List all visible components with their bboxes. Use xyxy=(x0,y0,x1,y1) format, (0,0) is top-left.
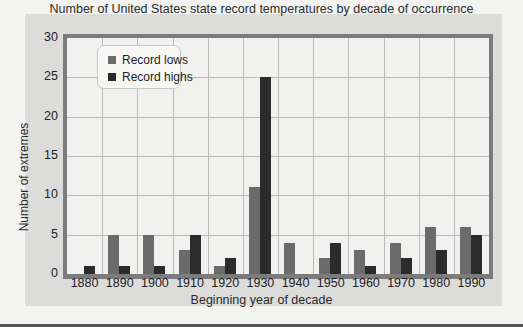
x-tick-label: 1880 xyxy=(65,276,105,290)
x-tick-label: 1890 xyxy=(100,276,140,290)
bar-record-high xyxy=(84,266,95,274)
legend-swatch-highs xyxy=(108,73,116,81)
bar-record-low xyxy=(108,235,119,274)
legend: Record lows Record highs xyxy=(97,45,181,89)
x-tick-label: 1970 xyxy=(381,276,421,290)
legend-label-highs: Record highs xyxy=(122,70,193,84)
y-axis-label: Number of extremes xyxy=(17,107,31,247)
bar-record-low xyxy=(425,227,436,274)
bar-record-high xyxy=(190,235,201,274)
gridline-vertical xyxy=(384,38,385,274)
bar-record-low xyxy=(143,235,154,274)
bar-record-low xyxy=(284,243,295,274)
bar-record-high xyxy=(401,258,412,274)
bar-record-low xyxy=(214,266,225,274)
x-tick-label: 1920 xyxy=(205,276,245,290)
gridline-vertical xyxy=(419,38,420,274)
bar-record-high xyxy=(471,235,482,274)
x-tick-label: 1950 xyxy=(311,276,351,290)
x-tick-label: 1940 xyxy=(276,276,316,290)
x-tick-label: 1900 xyxy=(135,276,175,290)
legend-item-highs: Record highs xyxy=(108,70,193,84)
bar-record-low xyxy=(179,250,190,274)
x-tick-label: 1930 xyxy=(240,276,280,290)
bar-record-high xyxy=(365,266,376,274)
y-tick-label: 20 xyxy=(28,109,58,123)
bar-record-high xyxy=(119,266,130,274)
gridline-vertical xyxy=(243,38,244,274)
bar-record-high xyxy=(225,258,236,274)
y-tick-label: 10 xyxy=(28,187,58,201)
bar-record-high xyxy=(154,266,165,274)
legend-label-lows: Record lows xyxy=(122,53,188,67)
bar-record-low xyxy=(390,243,401,274)
gridline-vertical xyxy=(313,38,314,274)
y-tick-label: 0 xyxy=(28,266,58,280)
chart-title: Number of United States state record tem… xyxy=(0,2,523,16)
bar-record-high xyxy=(436,250,447,274)
gridline-vertical xyxy=(454,38,455,274)
x-tick-label: 1910 xyxy=(170,276,210,290)
legend-item-lows: Record lows xyxy=(108,53,188,67)
bar-record-low xyxy=(354,250,365,274)
bar-record-low xyxy=(249,187,260,274)
x-axis-label: Beginning year of decade xyxy=(0,293,523,307)
gridline-vertical xyxy=(348,38,349,274)
gridline-vertical xyxy=(208,38,209,274)
x-tick-label: 1980 xyxy=(416,276,456,290)
bar-record-low xyxy=(319,258,330,274)
bar-record-high xyxy=(260,77,271,274)
x-tick-label: 1960 xyxy=(346,276,386,290)
bar-record-high xyxy=(330,243,341,274)
y-tick-label: 5 xyxy=(28,227,58,241)
y-tick-label: 25 xyxy=(28,69,58,83)
x-tick-label: 1990 xyxy=(451,276,491,290)
bar-record-low xyxy=(460,227,471,274)
y-tick-label: 30 xyxy=(28,30,58,44)
legend-swatch-lows xyxy=(108,56,116,64)
y-tick-label: 15 xyxy=(28,148,58,162)
gridline-vertical xyxy=(278,38,279,274)
